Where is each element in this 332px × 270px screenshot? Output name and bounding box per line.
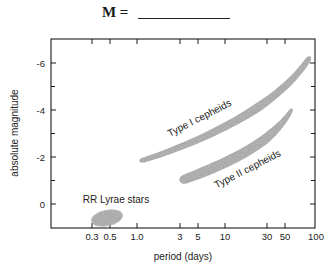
- x-tick-label: 1.0: [130, 231, 143, 242]
- x-axis-ticks-bottom: [92, 223, 285, 228]
- y-tick-labels: -6 -4 -2 0: [37, 58, 45, 210]
- x-axis-ticks-top: [92, 39, 285, 44]
- y-tick-label: -4: [37, 105, 45, 116]
- y-axis-label: absolute magnitude: [9, 89, 20, 177]
- x-tick-label: 30: [262, 231, 273, 242]
- x-tick-label: 0.3: [85, 231, 98, 242]
- type-i-cepheids-label: Type I cepheids: [166, 97, 233, 139]
- rr-lyrae-label: RR Lyrae stars: [83, 194, 149, 205]
- x-tick-labels: 0.3 0.5 1.0 3 5 10 30 50 100: [85, 231, 324, 242]
- y-axis-ticks-right: [310, 63, 315, 204]
- rr-lyrae-blob: [90, 207, 125, 229]
- x-tick-label: 10: [220, 231, 231, 242]
- x-tick-label: 5: [195, 231, 200, 242]
- y-tick-label: -6: [37, 58, 45, 69]
- y-tick-label: 0: [40, 199, 45, 210]
- x-tick-label: 3: [177, 231, 182, 242]
- x-tick-label: 0.5: [103, 231, 116, 242]
- x-tick-label: 100: [308, 231, 324, 242]
- x-axis-label: period (days): [154, 251, 212, 262]
- period-luminosity-chart: -6 -4 -2 0 0.3 0.5 1.0 3 5 10 30 50 100: [0, 0, 332, 270]
- y-tick-label: -2: [37, 152, 45, 163]
- x-tick-label: 50: [280, 231, 291, 242]
- y-axis-ticks-left: [51, 63, 56, 204]
